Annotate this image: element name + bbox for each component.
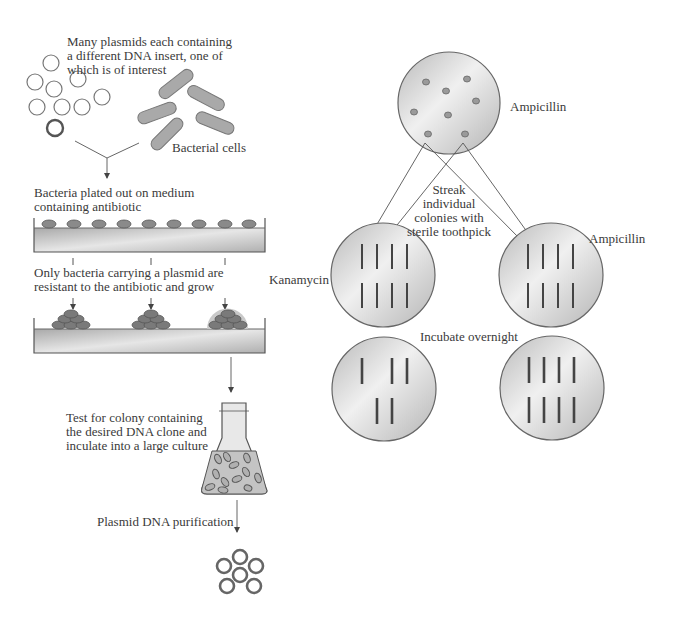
master-plate-label: Ampicillin xyxy=(510,100,566,114)
plate-side-initial xyxy=(34,218,265,252)
culture-flask xyxy=(202,403,267,494)
streak-label: Streak individual colonies with sterile … xyxy=(404,183,494,239)
kanamycin-label: Kanamycin xyxy=(269,273,329,287)
plasmids-label: Many plasmids each containing a differen… xyxy=(67,35,232,77)
incubate-label: Incubate overnight xyxy=(420,330,518,344)
master-plate-ampicillin xyxy=(398,52,500,154)
only-resistant-label: Only bacteria carrying a plasmid are res… xyxy=(34,266,224,294)
purified-plasmids xyxy=(217,550,263,593)
ampicillin-plate-streaked xyxy=(499,223,603,327)
ampicillin-label: Ampicillin xyxy=(589,232,645,246)
kanamycin-plate-grown xyxy=(332,337,436,441)
plated-out-label: Bacteria plated out on medium containing… xyxy=(34,186,194,214)
test-colony-label: Test for colony containing the desired D… xyxy=(66,411,208,453)
colony-pile-2 xyxy=(132,310,170,329)
purification-label: Plasmid DNA purification xyxy=(97,515,234,529)
colony-pile-3 xyxy=(209,310,247,329)
ampicillin-plate-grown xyxy=(500,336,604,440)
plate-side-colonies xyxy=(34,309,265,354)
colony-pile-1 xyxy=(52,310,90,329)
bacterial-cells-label: Bacterial cells xyxy=(172,141,246,155)
